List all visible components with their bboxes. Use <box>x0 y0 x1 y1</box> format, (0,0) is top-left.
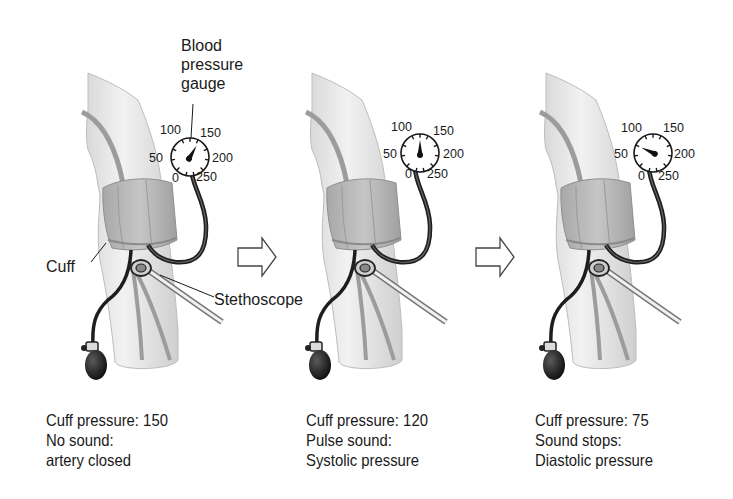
scale-250: 250 <box>427 168 448 181</box>
scale-200: 200 <box>212 152 233 165</box>
scale-50: 50 <box>383 148 397 161</box>
scale-0: 0 <box>638 170 645 183</box>
scale-200: 200 <box>674 148 695 161</box>
scale-150: 150 <box>433 125 454 138</box>
stethoscope-label: Stethoscope <box>214 290 303 309</box>
scale-100: 100 <box>160 124 181 137</box>
scale-0: 0 <box>172 172 179 185</box>
scale-100: 100 <box>621 122 642 135</box>
gauge-panel-3 <box>634 134 672 172</box>
caption-panel-3: Cuff pressure: 75 Sound stops: Diastolic… <box>535 410 653 470</box>
panel-2-arm <box>305 73 446 380</box>
arrow-right-icon <box>476 238 514 276</box>
scale-250: 250 <box>196 171 217 184</box>
gauge-label-leader <box>191 104 193 138</box>
scale-150: 150 <box>200 127 221 140</box>
cuff-label: Cuff <box>46 257 75 276</box>
caption-panel-2: Cuff pressure: 120 Pulse sound: Systolic… <box>306 410 428 470</box>
panel-3-arm <box>539 73 680 380</box>
gauge-title: Blood pressure gauge <box>181 36 243 93</box>
scale-50: 50 <box>149 152 163 165</box>
caption-panel-1: Cuff pressure: 150 No sound: artery clos… <box>46 410 168 470</box>
scale-150: 150 <box>663 122 684 135</box>
scale-100: 100 <box>391 121 412 134</box>
scale-0: 0 <box>405 168 412 181</box>
scale-250: 250 <box>658 170 679 183</box>
scale-50: 50 <box>614 148 628 161</box>
scale-200: 200 <box>443 148 464 161</box>
panel-1-arm <box>81 73 222 380</box>
arrow-right-icon <box>238 238 276 276</box>
